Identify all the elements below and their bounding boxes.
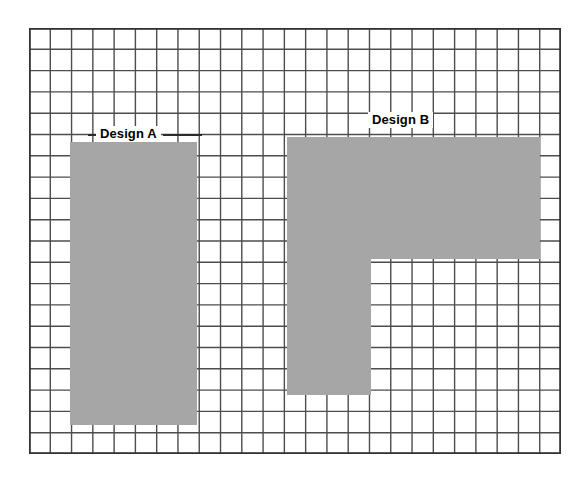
design-b-label: Design B xyxy=(368,112,433,128)
design-b-shape-left-stem xyxy=(287,259,371,395)
diagram-canvas: Design A Design B xyxy=(0,0,583,478)
design-a-shape xyxy=(70,142,197,425)
design-b-shape-top-bar xyxy=(287,137,540,259)
grid-area xyxy=(29,28,561,454)
design-a-leader-line-right xyxy=(163,134,202,136)
design-a-label: Design A xyxy=(96,126,161,142)
